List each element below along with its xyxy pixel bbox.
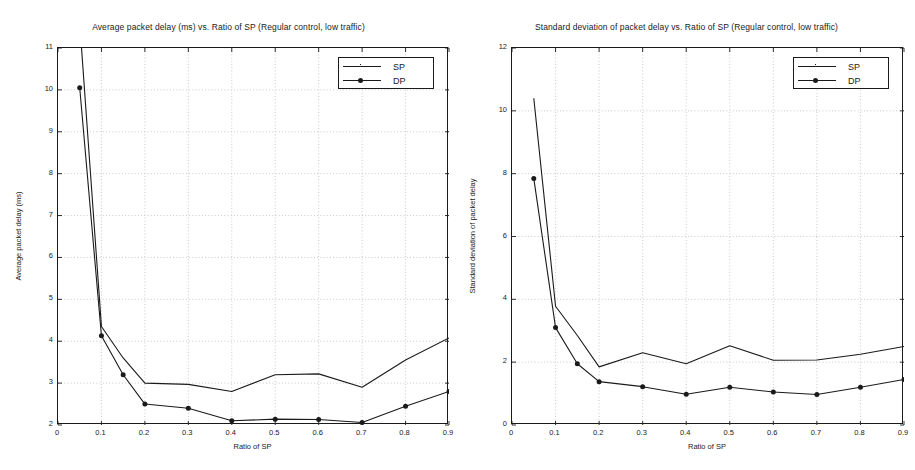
x-tick-label: 0.7 <box>801 428 831 437</box>
y-axis-label-right: Standard deviation of packet delay <box>468 178 477 293</box>
chart-panel-std-deviation-packet-delay: Standard deviation of packet delay vs. R… <box>458 0 915 470</box>
y-tick-label: 2 <box>29 419 53 428</box>
x-tick-label: 0.8 <box>844 428 874 437</box>
legend-swatch-dp-right <box>794 74 840 88</box>
chart-panel-average-packet-delay: Average packet delay (ms) vs. Ratio of S… <box>0 0 457 470</box>
x-tick-label: 0.2 <box>129 428 159 437</box>
y-tick-label: 4 <box>29 335 53 344</box>
y-tick-label: 8 <box>483 168 507 177</box>
x-tick-label: 0.2 <box>583 428 613 437</box>
y-axis-label-left: Average packet delay (ms) <box>14 191 23 280</box>
x-axis-label-right: Ratio of SP <box>511 442 903 451</box>
legend-line-icon <box>798 66 836 67</box>
x-tick-label: 0.6 <box>303 428 333 437</box>
x-tick-label: 0.9 <box>888 428 915 437</box>
x-axis-label-left: Ratio of SP <box>57 442 448 451</box>
chart-title-right: Standard deviation of packet delay vs. R… <box>458 22 915 32</box>
y-tick-label: 9 <box>29 126 53 135</box>
legend-entry-sp-left: SP <box>339 60 433 74</box>
plot-svg-right <box>512 48 904 425</box>
filled-circle-marker-icon <box>813 78 818 83</box>
y-tick-label: 11 <box>29 42 53 51</box>
x-tick-label: 0.1 <box>85 428 115 437</box>
y-tick-label: 10 <box>29 84 53 93</box>
y-tick-label: 8 <box>29 168 53 177</box>
legend-line-icon <box>343 66 381 67</box>
legend-entry-dp-right: DP <box>794 74 888 88</box>
legend-swatch-sp-left <box>339 60 385 74</box>
x-tick-label: 0.4 <box>670 428 700 437</box>
plot-area-left <box>57 47 448 424</box>
x-tick-label: 0.1 <box>540 428 570 437</box>
x-tick-label: 0.5 <box>259 428 289 437</box>
x-tick-label: 0.3 <box>172 428 202 437</box>
y-tick-label: 4 <box>483 293 507 302</box>
y-tick-label: 7 <box>29 210 53 219</box>
legend-swatch-dp-left <box>339 74 385 88</box>
legend-tick-icon <box>360 64 361 65</box>
legend-label-dp-left: DP <box>385 74 406 88</box>
figure-two-line-charts: Average packet delay (ms) vs. Ratio of S… <box>0 0 915 470</box>
chart-title-left: Average packet delay (ms) vs. Ratio of S… <box>0 22 457 32</box>
y-tick-label: 2 <box>483 356 507 365</box>
legend-left: SP DP <box>338 57 434 89</box>
legend-entry-sp-right: SP <box>794 60 888 74</box>
x-tick-label: 0.7 <box>346 428 376 437</box>
y-tick-label: 6 <box>29 251 53 260</box>
y-tick-label: 0 <box>483 419 507 428</box>
legend-label-sp-left: SP <box>385 60 405 74</box>
legend-right: SP DP <box>793 57 889 89</box>
plot-area-right <box>511 47 903 424</box>
x-tick-label: 0.3 <box>627 428 657 437</box>
filled-circle-marker-icon <box>358 78 363 83</box>
x-tick-label: 0.8 <box>390 428 420 437</box>
legend-label-dp-right: DP <box>840 74 861 88</box>
x-tick-label: 0 <box>42 428 72 437</box>
x-tick-label: 0.5 <box>714 428 744 437</box>
y-tick-label: 12 <box>483 42 507 51</box>
y-tick-label: 3 <box>29 377 53 386</box>
plot-svg-left <box>58 48 449 425</box>
x-tick-label: 0.4 <box>216 428 246 437</box>
y-tick-label: 5 <box>29 293 53 302</box>
y-tick-label: 10 <box>483 105 507 114</box>
legend-tick-icon <box>815 64 816 65</box>
legend-label-sp-right: SP <box>840 60 860 74</box>
legend-swatch-sp-right <box>794 60 840 74</box>
legend-entry-dp-left: DP <box>339 74 433 88</box>
x-tick-label: 0 <box>496 428 526 437</box>
y-tick-label: 6 <box>483 231 507 240</box>
x-tick-label: 0.6 <box>757 428 787 437</box>
